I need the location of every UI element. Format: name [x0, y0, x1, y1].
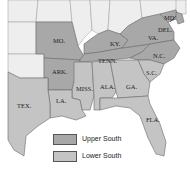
label-ala: ALA. [100, 83, 115, 90]
label-ark: ARK. [52, 68, 68, 75]
label-tex: TEX. [17, 102, 32, 109]
label-fla: FLA. [146, 116, 160, 123]
label-ky: KY. [110, 40, 121, 47]
legend-swatch-upper-south [53, 134, 77, 145]
southern-states-map: MO. ARK. KY. VA. MD. DEL. TENN. N.C. S.C… [0, 0, 190, 174]
legend-label-lower-south: Lower South [82, 152, 121, 159]
label-nc: N.C. [153, 52, 166, 59]
label-va: VA. [148, 34, 159, 41]
label-miss: MISS. [76, 85, 93, 92]
label-del: DEL. [158, 26, 173, 33]
label-ga: GA. [126, 83, 137, 90]
label-sc: S.C. [146, 69, 158, 76]
label-tenn: TENN. [98, 57, 117, 64]
state-texas [8, 72, 50, 156]
legend-swatch-lower-south [53, 151, 77, 162]
label-mo: MO. [53, 37, 65, 44]
state-florida [100, 96, 166, 156]
legend-label-upper-south: Upper South [82, 135, 121, 142]
label-la: LA. [56, 97, 67, 104]
